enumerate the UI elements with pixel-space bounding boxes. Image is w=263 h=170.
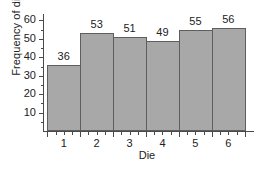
x-tick-label: 4	[152, 137, 172, 149]
x-tick-label: 5	[185, 137, 205, 149]
x-tick-minor	[228, 132, 229, 135]
x-tick-minor	[64, 132, 65, 135]
x-tick-minor	[138, 132, 139, 135]
x-tick-minor	[56, 132, 57, 135]
bar-chart: Frequency of die 102030405060 123456 365…	[0, 0, 263, 170]
y-tick-label: 60	[24, 13, 36, 25]
x-tick-label: 6	[218, 137, 238, 149]
x-tick-minor	[237, 132, 238, 135]
x-tick-minor	[220, 132, 221, 135]
bar-value-label: 55	[181, 15, 209, 27]
x-tick-minor	[154, 132, 155, 135]
plot-area: 365351495556	[44, 14, 252, 131]
x-tick-minor	[88, 132, 89, 135]
x-tick-minor	[195, 132, 196, 135]
bar	[179, 30, 213, 131]
x-tick-minor	[162, 132, 163, 135]
y-tick-label: 20	[24, 87, 36, 99]
x-tick-major	[245, 132, 246, 137]
bar	[47, 65, 81, 131]
x-tick-major	[47, 132, 48, 137]
x-tick-major	[80, 132, 81, 137]
y-tick-label: 30	[24, 69, 36, 81]
y-tick-label: 10	[24, 106, 36, 118]
x-tick-minor	[187, 132, 188, 135]
x-axis-title: Die	[40, 149, 254, 161]
y-tick-label: 40	[24, 50, 36, 62]
x-tick-label: 1	[54, 137, 74, 149]
bar-value-label: 49	[148, 26, 176, 38]
x-tick-minor	[204, 132, 205, 135]
bar-value-label: 53	[83, 18, 111, 30]
bar	[113, 37, 147, 131]
bar-value-label: 36	[50, 50, 78, 62]
x-tick-minor	[171, 132, 172, 135]
x-tick-minor	[72, 132, 73, 135]
x-axis-line	[43, 131, 254, 132]
x-tick-minor	[130, 132, 131, 135]
bar	[80, 33, 114, 131]
x-tick-major	[146, 132, 147, 137]
bar	[212, 28, 246, 131]
x-tick-major	[212, 132, 213, 137]
x-tick-minor	[97, 132, 98, 135]
x-tick-major	[113, 132, 114, 137]
x-tick-minor	[105, 132, 106, 135]
bar	[146, 41, 180, 131]
y-axis-ticks: 102030405060	[0, 0, 44, 170]
bar-value-label: 56	[214, 13, 242, 25]
x-tick-minor	[121, 132, 122, 135]
x-tick-label: 2	[87, 137, 107, 149]
x-tick-major	[179, 132, 180, 137]
bar-value-label: 51	[116, 22, 144, 34]
y-tick-label: 50	[24, 32, 36, 44]
x-tick-label: 3	[120, 137, 140, 149]
